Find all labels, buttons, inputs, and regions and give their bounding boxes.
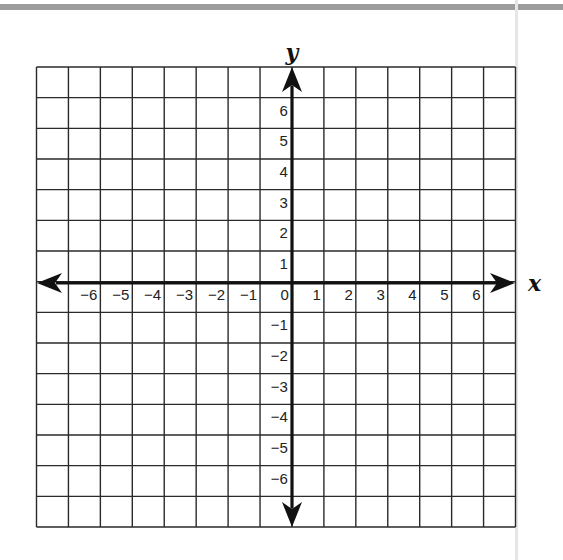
y-tick-label: 6: [280, 102, 288, 119]
x-tick-label: −3: [176, 286, 193, 303]
x-tick-label: 4: [408, 286, 416, 303]
x-tick-label: −1: [240, 286, 257, 303]
x-tick-labels: −6−5−4−3−2−10123456: [80, 286, 480, 303]
y-tick-label: −6: [271, 470, 288, 487]
y-tick-label: 3: [280, 194, 288, 211]
x-tick-label: −4: [144, 286, 161, 303]
y-axis-label: y: [285, 39, 301, 65]
y-tick-label: −1: [271, 316, 288, 333]
y-tick-label: 5: [280, 132, 288, 149]
y-tick-label: 2: [280, 224, 288, 241]
y-tick-label: 1: [280, 255, 288, 272]
y-tick-label: −4: [271, 408, 288, 425]
y-tick-label: −3: [271, 378, 288, 395]
x-axis-label: x: [527, 270, 542, 296]
x-tick-label: 6: [472, 286, 480, 303]
x-tick-label: 0: [281, 286, 289, 303]
y-tick-label: −5: [271, 439, 288, 456]
x-tick-label: −5: [112, 286, 129, 303]
x-tick-label: 3: [376, 286, 384, 303]
y-tick-label: 4: [280, 163, 288, 180]
x-tick-label: −2: [208, 286, 225, 303]
y-tick-label: −2: [271, 347, 288, 364]
x-tick-label: 2: [344, 286, 352, 303]
x-tick-label: 5: [440, 286, 448, 303]
x-tick-label: 1: [313, 286, 321, 303]
coordinate-plane: −6−5−4−3−2−10123456 654321−1−2−3−4−5−6 y…: [0, 0, 563, 560]
x-tick-label: −6: [80, 286, 97, 303]
